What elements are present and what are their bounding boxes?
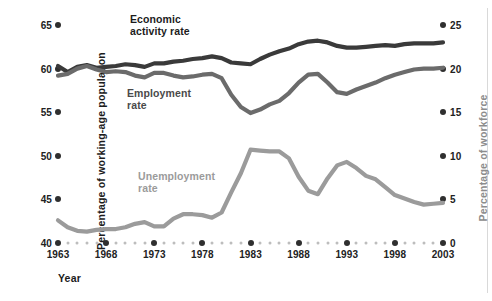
series-lines <box>0 0 492 301</box>
chart-container: Percentage of working-age population Per… <box>0 0 492 301</box>
series-line-employment-rate <box>58 66 443 113</box>
series-line-economic-activity-rate <box>58 41 443 72</box>
series-line-unemployment-rate <box>58 150 443 232</box>
